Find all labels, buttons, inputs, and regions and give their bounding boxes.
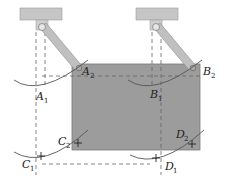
label-b2: B2: [202, 65, 215, 80]
svg-text:1: 1: [173, 167, 177, 175]
label-a1: A1: [35, 90, 48, 105]
svg-text:1: 1: [158, 95, 162, 103]
left-support: [20, 8, 62, 20]
svg-text:2: 2: [211, 72, 215, 80]
svg-text:1: 1: [30, 165, 34, 173]
svg-text:2: 2: [66, 142, 70, 150]
left-link: [39, 23, 82, 71]
svg-text:2: 2: [184, 135, 188, 143]
label-d1: D1: [164, 160, 177, 175]
label-c2: C2: [58, 135, 70, 150]
right-support: [136, 8, 178, 20]
svg-text:A: A: [35, 90, 44, 103]
svg-text:1: 1: [44, 97, 48, 105]
left-pivot-pin: [39, 24, 46, 31]
svg-text:A: A: [81, 65, 90, 78]
label-c1: C1: [22, 158, 34, 173]
svg-text:2: 2: [90, 72, 94, 80]
right-pivot-pin: [153, 24, 160, 31]
svg-text:B: B: [149, 88, 158, 101]
svg-text:B: B: [202, 65, 211, 78]
plate-linkage-diagram: A2 A1 B2 B1 C2 C1 D2 D1: [0, 0, 225, 189]
